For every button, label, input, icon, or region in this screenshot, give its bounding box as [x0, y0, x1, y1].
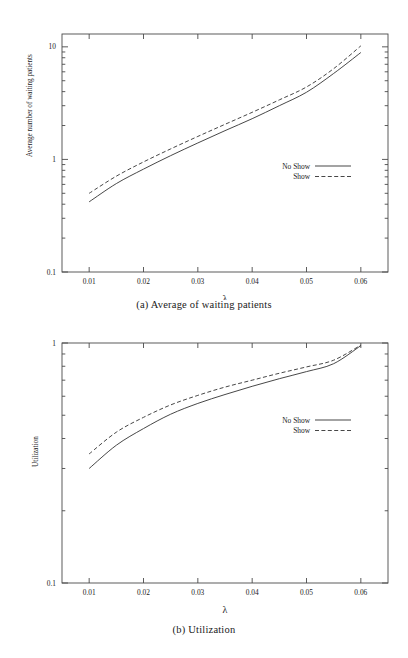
y-tick-label-a: 1: [52, 155, 56, 164]
x-tick-label-a-0: 0.01: [83, 277, 96, 286]
figure-b-caption: (b) Utilization: [0, 624, 408, 635]
y-tick-label-b: 1: [52, 339, 56, 348]
x-tick-label-a-2: 0.03: [191, 277, 204, 286]
x-tick-label-b-0: 0.01: [83, 588, 96, 597]
x-tick-label-b-2: 0.03: [191, 588, 204, 597]
legend-label-a-1: Show: [293, 172, 311, 181]
series-line-b-1: [89, 345, 361, 454]
plot-frame-b: [62, 343, 388, 583]
legend-label-b-1: Show: [293, 426, 311, 435]
legend-label-a-0: No Show: [282, 162, 310, 171]
x-tick-label-a-5: 0.06: [354, 277, 367, 286]
chart-a-canvas: 0.010.020.030.040.050.060.1110No ShowSho…: [0, 0, 408, 300]
series-line-a-1: [89, 46, 361, 193]
figure-a-average-waiting-patients: 0.010.020.030.040.050.060.1110No ShowSho…: [0, 0, 408, 330]
x-tick-label-a-1: 0.02: [137, 277, 150, 286]
y-axis-label-b: Utilization: [32, 436, 40, 467]
y-tick-label-b: 0.1: [47, 579, 57, 588]
x-tick-label-b-5: 0.06: [354, 588, 367, 597]
series-line-a-0: [89, 53, 361, 202]
y-tick-label-a: 0.1: [47, 268, 57, 277]
figure-b-utilization: 0.010.020.030.040.050.060.11No ShowShowλ…: [0, 330, 408, 658]
legend-label-b-0: No Show: [282, 416, 310, 425]
y-axis-label-a: Average number of waiting patients: [26, 54, 34, 157]
plot-area-a: 0.010.020.030.040.050.060.1110No ShowSho…: [0, 0, 408, 300]
figure-a-caption: (a) Average of waiting patients: [0, 299, 408, 310]
x-tick-label-a-4: 0.05: [300, 277, 313, 286]
x-tick-label-b-4: 0.05: [300, 588, 313, 597]
plot-area-b: 0.010.020.030.040.050.060.11No ShowShowλ…: [0, 330, 408, 625]
x-axis-label-b: λ: [223, 604, 228, 615]
y-tick-label-a: 10: [49, 42, 57, 51]
chart-b-canvas: 0.010.020.030.040.050.060.11No ShowShowλ: [0, 330, 408, 625]
x-tick-label-a-3: 0.04: [246, 277, 259, 286]
x-axis-label-a: λ: [223, 293, 228, 300]
x-tick-label-b-3: 0.04: [246, 588, 259, 597]
x-tick-label-b-1: 0.02: [137, 588, 150, 597]
